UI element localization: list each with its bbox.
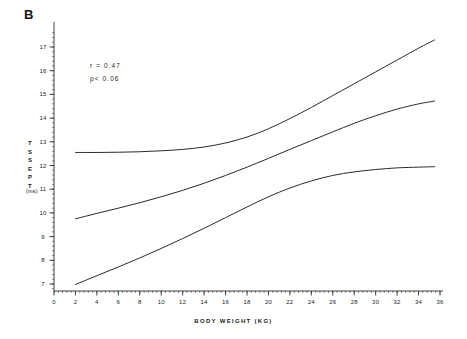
y-tick-label: 10 bbox=[39, 210, 46, 216]
y-tick-label: 8 bbox=[41, 257, 45, 263]
data-curve-lower-band bbox=[75, 167, 434, 285]
x-tick-label: 8 bbox=[138, 299, 142, 305]
data-curve-upper-band bbox=[75, 40, 434, 153]
x-tick-label: 2 bbox=[74, 299, 78, 305]
y-tick-label: 16 bbox=[39, 68, 46, 74]
x-tick-label: 30 bbox=[372, 299, 379, 305]
x-tick-label: 14 bbox=[201, 299, 208, 305]
x-tick-label: 10 bbox=[158, 299, 165, 305]
y-tick-label: 15 bbox=[39, 91, 46, 97]
x-tick-label: 20 bbox=[265, 299, 272, 305]
y-tick-label: 13 bbox=[39, 139, 46, 145]
x-tick-label: 32 bbox=[394, 299, 401, 305]
x-tick-label: 4 bbox=[95, 299, 99, 305]
x-tick-label: 6 bbox=[117, 299, 121, 305]
x-tick-label: 16 bbox=[222, 299, 229, 305]
plot-canvas bbox=[0, 0, 467, 339]
x-tick-label: 26 bbox=[329, 299, 336, 305]
x-tick-label: 34 bbox=[415, 299, 422, 305]
x-tick-label: 36 bbox=[436, 299, 443, 305]
x-tick-label: 18 bbox=[243, 299, 250, 305]
x-tick-label: 28 bbox=[351, 299, 358, 305]
y-tick-label: 9 bbox=[41, 234, 45, 240]
x-tick-label: 0 bbox=[52, 299, 56, 305]
x-tick-label: 22 bbox=[286, 299, 293, 305]
y-tick-label: 17 bbox=[39, 44, 46, 50]
y-tick-label: 11 bbox=[40, 186, 47, 192]
y-tick-label: 7 bbox=[41, 281, 45, 287]
figure-panel: B r = 0.47 p< 0.06 TSSEPT (ms) BODY WEIG… bbox=[0, 0, 467, 339]
x-tick-label: 24 bbox=[308, 299, 315, 305]
y-tick-label: 14 bbox=[39, 115, 46, 121]
y-tick-label: 12 bbox=[39, 163, 46, 169]
data-curve-regression-line bbox=[75, 101, 434, 219]
x-tick-label: 12 bbox=[179, 299, 186, 305]
